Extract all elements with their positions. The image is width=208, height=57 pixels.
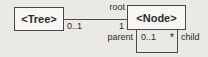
parent-role-label: parent xyxy=(98,32,133,42)
tree-class-name: <Tree> xyxy=(21,13,56,25)
child-role-label: child xyxy=(181,32,200,42)
root-role-label: root xyxy=(90,2,125,12)
child-multiplicity-label: * xyxy=(160,32,174,43)
root-multiplicity-label: 1 xyxy=(105,21,124,31)
tree-multiplicity-label: 0..1 xyxy=(67,21,82,31)
class-box-node: <Node> xyxy=(127,5,186,30)
node-class-name: <Node> xyxy=(136,12,176,24)
parent-multiplicity-label: 0..1 xyxy=(141,32,156,42)
class-box-tree: <Tree> xyxy=(14,7,64,31)
uml-class-diagram: <Tree> <Node> root 1 0..1 parent 0..1 * … xyxy=(0,0,208,57)
tree-node-association-line xyxy=(64,19,127,20)
